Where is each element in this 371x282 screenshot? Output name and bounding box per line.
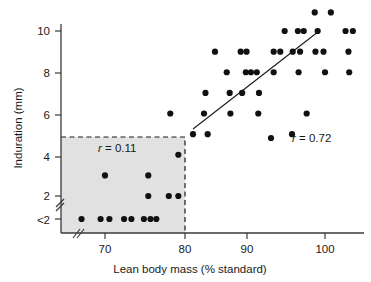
y-tick-label-10: 10 [37, 25, 50, 37]
data-point [312, 9, 318, 15]
data-point [239, 90, 245, 96]
data-point [78, 216, 84, 222]
annotation-r-low: r = 0.11 [98, 142, 136, 154]
data-point [227, 110, 233, 116]
data-point [175, 193, 181, 199]
data-point [301, 28, 307, 34]
r-value-low: = 0.11 [102, 142, 137, 154]
data-point [277, 49, 283, 55]
data-point [296, 69, 302, 75]
y-tick-label-lt2: <2 [37, 214, 50, 226]
data-point [271, 69, 277, 75]
data-point [295, 28, 301, 34]
data-series-high-group [167, 9, 356, 137]
data-point [304, 110, 310, 116]
data-point [121, 216, 127, 222]
data-point [190, 131, 196, 137]
data-point [320, 49, 326, 55]
data-point [346, 69, 352, 75]
data-point [145, 193, 151, 199]
y-axis-ticks [55, 31, 61, 219]
svg-text:r = 0.72: r = 0.72 [292, 132, 331, 144]
data-point [202, 90, 208, 96]
data-point [345, 49, 351, 55]
annotation-r-high: r = 0.72 [268, 132, 331, 144]
data-point [297, 49, 303, 55]
y-axis-title: Induration (mm) [12, 87, 24, 168]
x-axis-ticks [105, 233, 325, 239]
data-point [201, 110, 207, 116]
data-point [212, 49, 218, 55]
legend-sample-dot [268, 135, 274, 141]
data-point [167, 110, 173, 116]
svg-text:r = 0.11: r = 0.11 [98, 142, 136, 154]
data-point [205, 131, 211, 137]
x-tick-label-70: 70 [99, 243, 112, 255]
data-point [147, 216, 153, 222]
data-point [102, 172, 108, 178]
r-value-high: = 0.72 [296, 132, 332, 144]
data-point [128, 216, 134, 222]
data-point [166, 193, 172, 199]
data-point [238, 49, 244, 55]
data-point [141, 216, 147, 222]
data-point [145, 172, 151, 178]
data-point [255, 110, 261, 116]
data-point [315, 28, 321, 34]
x-tick-label-80: 80 [179, 243, 192, 255]
data-point [342, 28, 348, 34]
scatter-plot-figure: 10 8 6 4 2 <2 70 80 90 100 Lean body mas… [0, 0, 371, 282]
x-tick-label-90: 90 [241, 243, 254, 255]
x-tick-label-100: 100 [315, 243, 334, 255]
y-tick-label-2: 2 [44, 190, 50, 202]
x-axis-title: Lean body mass (% standard) [113, 263, 267, 275]
data-point [312, 49, 318, 55]
data-point [106, 216, 112, 222]
data-point [175, 152, 181, 158]
chart-svg: 10 8 6 4 2 <2 70 80 90 100 Lean body mas… [0, 0, 371, 282]
data-point [290, 49, 296, 55]
data-point [243, 49, 249, 55]
data-point [153, 216, 159, 222]
data-point [254, 69, 260, 75]
data-point [271, 49, 277, 55]
y-tick-label-6: 6 [44, 109, 50, 121]
data-point [350, 28, 356, 34]
data-point [98, 216, 104, 222]
data-point [322, 69, 328, 75]
y-tick-label-4: 4 [44, 151, 51, 163]
data-point [328, 9, 334, 15]
data-point [227, 90, 233, 96]
data-point [256, 90, 262, 96]
data-point [224, 69, 230, 75]
y-tick-label-8: 8 [44, 67, 50, 79]
data-point [282, 28, 288, 34]
data-point [248, 69, 254, 75]
